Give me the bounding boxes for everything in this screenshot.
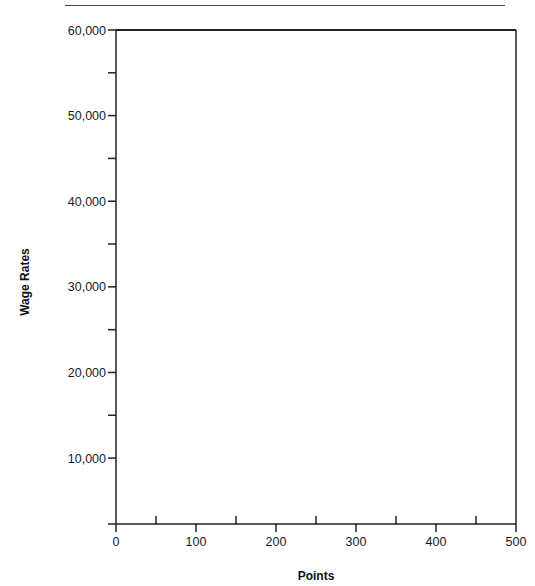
x-axis-title: Points [298, 569, 335, 583]
y-tick-label: 40,000 [68, 195, 106, 209]
wage-rate-chart: 10,00020,00030,00040,00050,00060,000 010… [0, 0, 535, 586]
y-tick-label: 30,000 [68, 280, 106, 294]
x-tick-label: 300 [346, 535, 367, 549]
y-axis-title: Wage Rates [18, 248, 32, 316]
y-tick-label: 50,000 [68, 109, 106, 123]
plot-frame [108, 30, 516, 524]
y-tick-label: 10,000 [68, 452, 106, 466]
x-tick-label: 400 [426, 535, 447, 549]
x-tick-label: 200 [266, 535, 287, 549]
x-tick-label: 0 [113, 535, 120, 549]
y-tick-label: 60,000 [68, 24, 106, 38]
x-tick-label: 100 [186, 535, 207, 549]
x-tick-label: 500 [506, 535, 527, 549]
y-tick-label: 20,000 [68, 366, 106, 380]
y-axis-ticks: 10,00020,00030,00040,00050,00060,000 [68, 24, 116, 466]
x-axis-ticks: 0100200300400500 [113, 516, 527, 549]
